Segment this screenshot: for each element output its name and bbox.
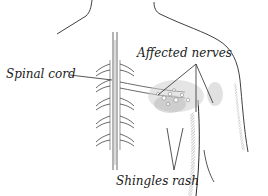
body-outline-left [57,0,92,34]
label-spinal-cord: Spinal cord [6,68,76,80]
anatomy-illustration [0,0,268,196]
shingles-diagram: Spinal cord Affected nerves Shingles ras… [0,0,268,196]
shingles-rash-area [148,80,223,113]
label-shingles-rash: Shingles rash [116,175,199,187]
label-affected-nerves: Affected nerves [137,47,232,59]
